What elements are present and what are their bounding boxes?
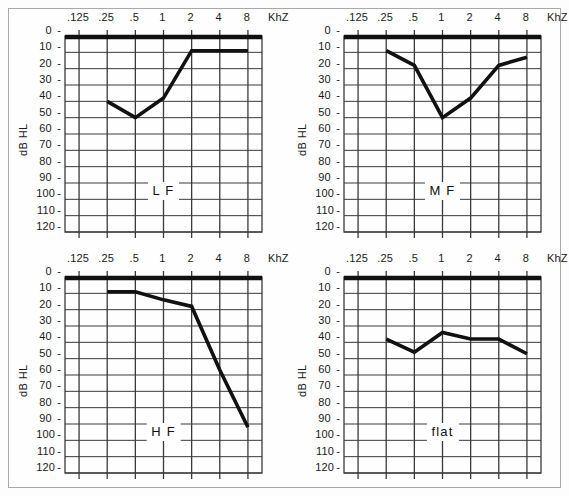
audiogram-figure: dB HL0 -10 -20 -30 -40 -50 -60 -70 -80 -… [0,0,569,496]
y-tick-mark: - [54,347,61,359]
threshold-curve[interactable] [386,333,527,354]
y-tick-label: 60 - [39,363,61,375]
y-tick-group: 0 -10 -20 -30 -40 -50 -60 -70 -80 -90 -1… [27,250,61,491]
x-tick-label: 2 [187,252,193,264]
y-tick-group: 0 -10 -20 -30 -40 -50 -60 -70 -80 -90 -1… [27,9,61,250]
y-tick-mark: - [54,298,61,310]
y-tick-label: 110- [316,445,340,457]
y-tick-mark: - [333,379,340,391]
y-tick-mark: - [333,155,340,167]
y-tick-label: 30 - [39,314,61,326]
y-tick-mark: - [336,187,340,199]
y-tick-mark: - [54,138,61,150]
y-tick-label: 60 - [318,363,340,375]
y-tick-mark: - [333,363,340,375]
x-tick-label: 2 [466,252,472,264]
y-tick-mark: - [333,171,340,183]
x-tick-label: 1 [159,252,165,264]
y-tick-label: 90 - [39,412,61,424]
y-tick-label: 40 - [318,89,340,101]
y-tick-label: 30 - [39,73,61,85]
chart-annotation-label: L F [148,182,180,200]
y-tick-mark: - [54,40,61,52]
x-tick-label: 8 [244,252,250,264]
y-tick-mark: - [54,330,61,342]
x-tick-label: 1 [438,11,444,23]
y-tick-label: 100- [315,428,340,440]
y-tick-label: 30 - [318,314,340,326]
y-tick-mark: - [54,363,61,375]
y-tick-label: 100- [36,428,61,440]
x-tick-label: .25 [98,11,114,23]
threshold-curve[interactable] [107,51,248,118]
y-tick-label: 60 - [318,122,340,134]
y-tick-mark: - [54,314,61,326]
x-tick-label: .5 [130,252,140,264]
y-tick-mark: - [333,106,340,118]
x-tick-label: 4 [495,11,501,23]
x-tick-label: 4 [495,252,501,264]
y-tick-label: 50 - [318,347,340,359]
y-tick-mark: - [333,298,340,310]
y-tick-label: 40 - [39,330,61,342]
threshold-curve[interactable] [107,292,248,428]
y-tick-mark: - [54,57,61,69]
y-tick-mark: - [333,138,340,150]
y-tick-mark: - [336,220,340,232]
y-tick-mark: - [57,220,61,232]
y-tick-label: 110- [37,204,61,216]
x-axis-unit-label: KhZ [268,11,289,23]
y-tick-mark: - [54,281,61,293]
y-tick-mark: - [57,461,61,473]
x-tick-label: .125 [67,252,89,264]
y-tick-mark: - [333,281,340,293]
y-tick-mark: - [54,89,61,101]
y-tick-mark: - [333,89,340,101]
x-tick-label: 8 [244,11,250,23]
x-tick-group: .125.25.51248KhZ [9,250,288,272]
chart-panel-flat: dB HL0 -10 -20 -30 -40 -50 -60 -70 -80 -… [288,250,567,491]
audiogram-plot [343,30,542,238]
y-tick-label: 50 - [39,347,61,359]
y-tick-label: 120- [36,220,61,232]
x-tick-group: .125.25.51248KhZ [288,250,567,272]
x-tick-label: 1 [438,252,444,264]
chart-annotation-label: H F [146,423,181,441]
x-tick-label: .5 [409,252,419,264]
y-tick-group: 0 -10 -20 -30 -40 -50 -60 -70 -80 -90 -1… [306,250,340,491]
y-tick-mark: - [333,412,340,424]
y-tick-label: 100- [315,187,340,199]
x-tick-label: .25 [377,252,393,264]
y-tick-label: 10 - [39,281,61,293]
y-tick-label: 110- [37,445,61,457]
x-tick-label: 1 [159,11,165,23]
y-tick-group: 0 -10 -20 -30 -40 -50 -60 -70 -80 -90 -1… [306,9,340,250]
y-tick-label: 70 - [39,379,61,391]
x-tick-label: 8 [523,252,529,264]
y-tick-mark: - [57,428,61,440]
y-tick-label: 50 - [318,106,340,118]
y-tick-mark: - [54,155,61,167]
y-tick-mark: - [336,445,340,457]
y-tick-mark: - [54,73,61,85]
threshold-curve[interactable] [386,51,527,118]
y-tick-label: 90 - [318,171,340,183]
y-tick-mark: - [333,57,340,69]
y-tick-label: 10 - [39,40,61,52]
x-tick-label: 4 [216,252,222,264]
y-tick-mark: - [333,347,340,359]
y-tick-label: 80 - [39,396,61,408]
y-tick-mark: - [336,461,340,473]
chart-annotation-label: M F [425,182,461,200]
y-tick-label: 110- [316,204,340,216]
x-tick-group: .125.25.51248KhZ [288,9,567,31]
y-tick-label: 50 - [39,106,61,118]
x-tick-label: .5 [409,11,419,23]
y-tick-label: 70 - [318,379,340,391]
x-axis-unit-label: KhZ [268,252,289,264]
chart-panel-h-f: dB HL0 -10 -20 -30 -40 -50 -60 -70 -80 -… [9,250,288,491]
y-tick-label: 10 - [318,40,340,52]
x-tick-label: 2 [187,11,193,23]
x-tick-label: .125 [346,11,368,23]
y-tick-mark: - [54,106,61,118]
